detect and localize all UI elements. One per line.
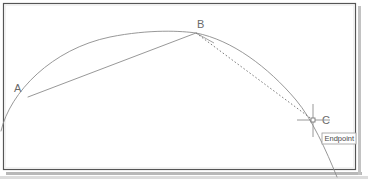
vertex-label-b: B xyxy=(197,18,204,30)
endpoint-snap-marker xyxy=(311,118,315,122)
endpoint-tooltip: Endpoint xyxy=(322,133,356,144)
cad-drawing-surface[interactable]: A B C Endpoint xyxy=(0,0,368,179)
canvas-background xyxy=(0,0,368,179)
cad-drawing-canvas[interactable]: A B C Endpoint xyxy=(0,0,368,179)
tooltip-label: Endpoint xyxy=(325,134,356,143)
vertex-label-a: A xyxy=(14,82,22,94)
